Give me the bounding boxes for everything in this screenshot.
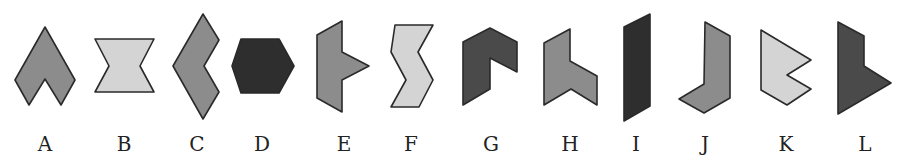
shape-i bbox=[624, 14, 650, 121]
label-l: L bbox=[858, 132, 871, 156]
shape-f bbox=[391, 25, 433, 107]
shape-j bbox=[679, 22, 730, 113]
shape-a bbox=[15, 27, 75, 105]
label-group: A B C D E F G H I J K L bbox=[37, 132, 872, 156]
shape-group bbox=[15, 14, 891, 121]
shape-b bbox=[95, 39, 154, 92]
label-a: A bbox=[37, 132, 53, 156]
label-b: B bbox=[117, 132, 132, 156]
label-e: E bbox=[337, 132, 352, 156]
label-c: C bbox=[189, 132, 204, 156]
label-d: D bbox=[254, 132, 270, 156]
label-i: I bbox=[632, 132, 640, 156]
shape-k bbox=[761, 30, 811, 105]
label-h: H bbox=[561, 132, 578, 156]
shape-h bbox=[544, 29, 597, 105]
shape-l bbox=[838, 22, 891, 114]
shape-e bbox=[317, 21, 369, 112]
label-g: G bbox=[483, 132, 499, 156]
shapes-figure: A B C D E F G H I J K L bbox=[0, 0, 910, 167]
shape-d bbox=[232, 39, 294, 93]
label-j: J bbox=[699, 132, 709, 156]
label-k: K bbox=[779, 132, 795, 156]
shape-c bbox=[173, 14, 219, 119]
label-f: F bbox=[404, 132, 418, 156]
shape-g bbox=[463, 28, 517, 105]
